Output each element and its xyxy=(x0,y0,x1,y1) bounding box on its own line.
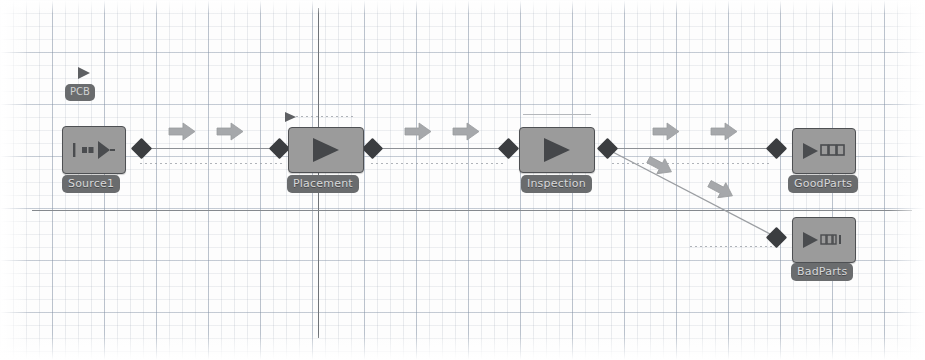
flow-arrow-icon-flow-1 xyxy=(168,122,196,145)
port-inspection-in[interactable] xyxy=(498,138,519,159)
process-play-icon xyxy=(540,135,574,165)
flow-arrow-icon-flow-5 xyxy=(652,122,680,145)
link-placement-dotted-guide[interactable] xyxy=(371,163,506,164)
block-label-badparts[interactable]: BadParts xyxy=(791,263,853,281)
port-goodparts-in[interactable] xyxy=(766,138,787,159)
link-inspection-dotted-guide[interactable] xyxy=(612,163,772,164)
port-source1-out[interactable] xyxy=(131,138,152,159)
link-source1-to-placement[interactable] xyxy=(140,148,280,149)
source-generator-icon xyxy=(70,138,118,162)
process-play-icon xyxy=(309,135,343,165)
port-badparts-in[interactable] xyxy=(766,227,787,248)
block-inspection[interactable] xyxy=(519,127,595,173)
link-inspection-to-badparts[interactable] xyxy=(0,0,925,360)
entity-label-pcb[interactable]: PCB xyxy=(65,84,95,101)
entity-marker-icon-placement-entity-marker xyxy=(284,108,298,127)
link-placement-top-guide[interactable] xyxy=(296,116,354,117)
block-label-goodparts[interactable]: GoodParts xyxy=(788,175,858,193)
flow-arrow-icon-flow-2 xyxy=(216,122,244,145)
block-badparts[interactable] xyxy=(792,217,856,263)
link-inspection-top-guide[interactable] xyxy=(523,114,591,115)
horizontal-axis xyxy=(32,210,912,211)
link-source1-dotted-guide[interactable] xyxy=(140,163,285,164)
grid-major xyxy=(0,0,925,360)
grid-minor xyxy=(0,0,925,360)
flow-arrow-icon-flow-6 xyxy=(710,122,738,145)
sink-queue-icon xyxy=(801,229,847,251)
block-label-source1[interactable]: Source1 xyxy=(62,175,120,193)
link-placement-to-inspection[interactable] xyxy=(371,148,509,149)
vertical-axis xyxy=(318,8,319,338)
link-badparts-dotted-guide[interactable] xyxy=(690,246,775,247)
port-placement-out[interactable] xyxy=(362,138,383,159)
port-placement-in[interactable] xyxy=(269,138,290,159)
model-canvas[interactable]: Source1 Placement Inspection GoodParts B… xyxy=(0,0,925,360)
flow-arrow-icon-flow-4 xyxy=(452,122,480,145)
port-inspection-out[interactable] xyxy=(597,138,618,159)
flow-arrow-icon-flow-branch-1 xyxy=(641,151,677,184)
block-label-placement[interactable]: Placement xyxy=(287,175,359,193)
link-inspection-to-goodparts[interactable] xyxy=(606,148,776,149)
block-placement[interactable] xyxy=(288,127,364,173)
sink-queue-icon xyxy=(801,140,847,162)
block-source1[interactable] xyxy=(62,126,126,174)
entity-marker-icon xyxy=(76,66,92,80)
flow-arrow-icon-flow-branch-2 xyxy=(702,175,738,208)
block-goodparts[interactable] xyxy=(792,128,856,174)
block-label-inspection[interactable]: Inspection xyxy=(521,175,592,193)
flow-arrow-icon-flow-3 xyxy=(404,122,432,145)
